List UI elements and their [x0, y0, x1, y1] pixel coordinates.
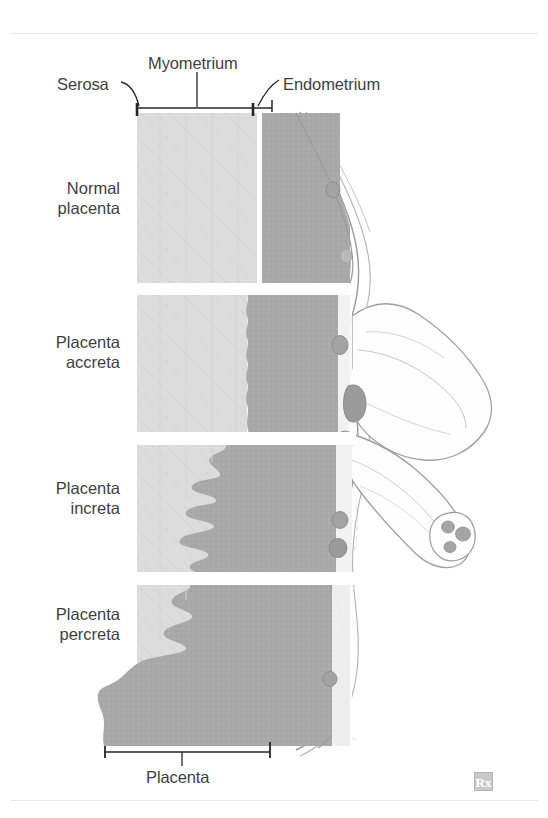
panel-placenta-accreta — [137, 294, 352, 434]
row-label-line2: increta — [2, 498, 120, 518]
row-label-line2: placenta — [2, 198, 120, 218]
callout-label-endometrium: Endometrium — [283, 75, 380, 94]
callout-label-myometrium: Myometrium — [148, 54, 238, 73]
top-callout-bracket — [121, 72, 279, 116]
uterine-vessel — [340, 249, 352, 263]
placenta-accreta-spectrum-illustration — [0, 0, 548, 818]
uterine-vessel — [326, 182, 340, 198]
row-label-line1: Normal — [2, 178, 120, 198]
panel-placenta-increta — [137, 444, 352, 574]
uterine-vessel — [329, 539, 347, 558]
row-label-line2: percreta — [2, 624, 120, 644]
row-label-line1: Placenta — [2, 604, 120, 624]
panel-placenta-percreta — [98, 584, 352, 748]
row-label-normal-placenta: Normal placenta — [2, 178, 120, 218]
row-label-placenta-increta: Placenta increta — [2, 478, 120, 518]
callout-label-serosa: Serosa — [57, 75, 109, 94]
callout-label-placenta: Placenta — [146, 768, 209, 787]
row-label-placenta-accreta: Placenta accreta — [2, 332, 120, 372]
row-label-placenta-percreta: Placenta percreta — [2, 604, 120, 644]
uterine-vessel — [344, 385, 367, 422]
row-label-line1: Placenta — [2, 478, 120, 498]
rx-watermark-icon: Rx — [474, 772, 493, 791]
uterine-vessel — [323, 672, 337, 687]
uterine-vessel — [332, 512, 348, 529]
figure-root: Serosa Myometrium Endometrium Placenta N… — [0, 0, 548, 818]
row-label-line1: Placenta — [2, 332, 120, 352]
panel-normal-placenta — [137, 113, 353, 283]
row-label-line2: accreta — [2, 352, 120, 372]
uterine-vessel — [332, 336, 348, 355]
